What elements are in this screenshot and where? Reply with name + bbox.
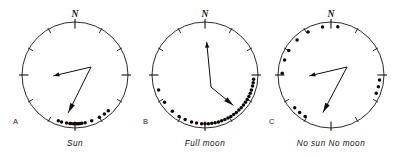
mean-vector-A	[54, 67, 91, 113]
data-point	[378, 78, 382, 82]
north-label-A: N	[71, 9, 80, 19]
data-point	[251, 81, 255, 85]
data-point	[69, 122, 73, 126]
data-point	[247, 95, 251, 99]
data-point	[295, 38, 299, 42]
data-point	[203, 122, 207, 126]
data-point	[107, 109, 111, 113]
panel-letter-B: B	[143, 117, 148, 126]
data-point	[280, 72, 284, 76]
mean-vector-C	[310, 67, 347, 112]
data-point	[157, 88, 161, 92]
panel-letter-C: C	[269, 117, 275, 126]
circle-outline-C	[278, 22, 384, 128]
data-point	[321, 25, 325, 29]
vector-arrowhead-2-C	[323, 103, 330, 113]
panel-letter-A: A	[13, 117, 18, 126]
panel-caption-A: Sun	[67, 139, 83, 148]
panel-caption-B: Full moon	[185, 139, 225, 148]
data-point	[293, 106, 297, 110]
panel-A	[19, 19, 131, 131]
panels-layer	[19, 19, 387, 131]
data-point	[251, 84, 255, 88]
data-point	[250, 88, 254, 92]
data-point	[77, 122, 81, 126]
data-point	[220, 119, 224, 123]
data-point	[207, 122, 211, 126]
panel-C	[275, 19, 387, 131]
data-point	[98, 116, 102, 120]
data-point	[190, 120, 194, 124]
data-point	[213, 121, 217, 125]
data-point	[80, 122, 84, 126]
data-point	[103, 112, 107, 116]
data-point	[217, 120, 221, 124]
data-point	[306, 30, 310, 34]
data-point	[287, 49, 291, 53]
data-point	[226, 116, 230, 120]
data-point	[60, 120, 64, 124]
data-point	[377, 85, 381, 89]
figure-root: NASunNBFull moonNCNo sun No moon	[0, 0, 402, 158]
circle-outline-A	[22, 22, 128, 128]
data-point	[283, 58, 287, 62]
data-point	[375, 92, 379, 96]
data-point	[57, 119, 61, 123]
vector-arrowhead-2-A	[68, 103, 75, 113]
data-point	[73, 122, 77, 126]
data-point	[65, 121, 69, 125]
panel-B	[149, 19, 261, 131]
data-point	[303, 115, 307, 119]
figure-canvas: NASunNBFull moonNCNo sun No moon	[0, 0, 402, 158]
data-point	[223, 118, 227, 122]
data-point	[249, 92, 253, 96]
data-point	[171, 110, 175, 114]
data-point	[90, 119, 94, 123]
data-point	[163, 101, 167, 105]
data-point	[195, 121, 199, 125]
data-point	[298, 111, 302, 115]
data-point	[83, 121, 87, 125]
data-point	[246, 98, 250, 102]
data-point	[336, 25, 340, 29]
data-point	[200, 122, 204, 126]
north-label-C: N	[327, 9, 336, 19]
data-point	[210, 122, 214, 126]
data-point	[252, 78, 256, 82]
mean-vector-B	[205, 42, 233, 105]
data-point	[177, 115, 181, 119]
data-point	[229, 115, 233, 119]
panel-caption-C: No sun No moon	[297, 139, 365, 148]
vector-shaft-B	[207, 42, 233, 105]
north-label-B: N	[201, 9, 210, 19]
circle-outline-B	[152, 22, 258, 128]
data-point	[183, 118, 187, 122]
